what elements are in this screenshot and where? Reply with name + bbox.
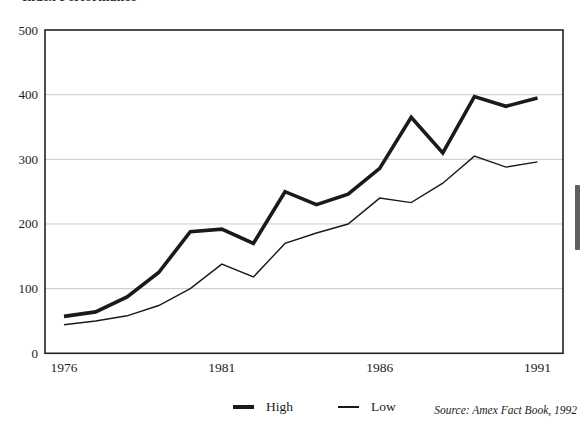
amex-index-performance-figure: Index Performance 0100200300400500197619… bbox=[0, 0, 582, 440]
x-tick-label-1981: 1981 bbox=[208, 360, 235, 375]
y-tick-label-500: 500 bbox=[19, 23, 39, 38]
low-series-line-swatch bbox=[338, 406, 359, 408]
series-line-high bbox=[64, 97, 538, 317]
source-note: Source: Amex Fact Book, 1992 bbox=[434, 404, 577, 416]
y-tick-label-400: 400 bbox=[19, 87, 39, 102]
line-chart: 01002003004005001976198119861991 bbox=[0, 0, 582, 440]
y-tick-label-100: 100 bbox=[19, 281, 39, 296]
y-tick-label-300: 300 bbox=[19, 152, 39, 167]
x-tick-label-1976: 1976 bbox=[51, 360, 78, 375]
legend-item-low: Low bbox=[338, 399, 396, 415]
legend-label-high: High bbox=[266, 399, 293, 415]
x-tick-label-1986: 1986 bbox=[366, 360, 393, 375]
x-tick-label-1991: 1991 bbox=[524, 360, 551, 375]
legend-label-low: Low bbox=[371, 399, 396, 415]
legend-item-high: High bbox=[233, 399, 293, 415]
high-series-line-swatch bbox=[233, 405, 254, 409]
scrollbar-thumb[interactable] bbox=[575, 185, 580, 250]
y-tick-label-200: 200 bbox=[19, 216, 39, 231]
y-tick-label-0: 0 bbox=[32, 346, 39, 361]
series-line-low bbox=[64, 156, 538, 325]
legend: High Low bbox=[233, 399, 396, 415]
plot-frame bbox=[45, 30, 563, 353]
